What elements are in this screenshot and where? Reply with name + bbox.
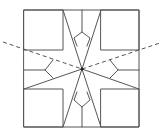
bottom-kite: [82, 92, 90, 107]
dashed-guide-line: [3, 42, 82, 69]
left-kite: [24, 60, 53, 70]
dashed-guide-line: [82, 43, 160, 69]
right-kite: [110, 70, 118, 78]
corner-square-top-right: [101, 10, 139, 50]
spoke-line: [63, 10, 82, 69]
quilt-block-diagram: [0, 0, 165, 138]
center-point: [80, 67, 83, 70]
bottom-kite: [74, 92, 82, 127]
diagram-canvas: [0, 0, 165, 138]
left-kite: [45, 70, 53, 78]
corner-square-bottom-right: [101, 89, 139, 127]
spoke-line: [24, 69, 82, 89]
spoke-line: [63, 69, 82, 127]
corner-square-bottom-left: [24, 89, 63, 127]
spoke-line: [82, 69, 139, 89]
top-kite: [82, 32, 90, 46]
right-kite: [110, 60, 139, 70]
spoke-line: [82, 10, 101, 69]
corner-square-top-left: [24, 10, 63, 50]
top-kite: [74, 10, 82, 46]
spoke-line: [82, 69, 101, 127]
